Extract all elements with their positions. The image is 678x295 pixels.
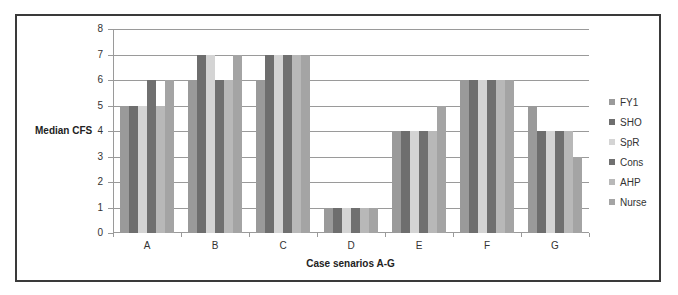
legend-swatch-icon bbox=[609, 99, 615, 105]
x-tick-mark bbox=[181, 233, 182, 237]
y-tick-mark bbox=[108, 80, 113, 81]
bar-F-sho bbox=[469, 80, 478, 233]
bar-G-sho bbox=[537, 131, 546, 233]
y-tick-mark bbox=[108, 182, 113, 183]
bar-B-fy1 bbox=[188, 80, 197, 233]
bar-B-cons bbox=[215, 80, 224, 233]
gridline bbox=[113, 55, 589, 56]
y-tick-label: 0 bbox=[83, 227, 103, 238]
y-tick-label: 6 bbox=[83, 74, 103, 85]
bar-E-ahp bbox=[428, 131, 437, 233]
bar-F-ahp bbox=[496, 80, 505, 233]
gridline bbox=[113, 80, 589, 81]
x-category-label: A bbox=[113, 240, 181, 251]
legend-item-nurse: Nurse bbox=[609, 192, 647, 212]
y-tick-mark bbox=[108, 208, 113, 209]
bar-A-ahp bbox=[156, 106, 165, 234]
bar-A-cons bbox=[147, 80, 156, 233]
y-tick-label: 3 bbox=[83, 151, 103, 162]
bar-B-spr bbox=[206, 55, 215, 234]
bar-G-cons bbox=[555, 131, 564, 233]
bar-E-cons bbox=[419, 131, 428, 233]
x-tick-mark bbox=[521, 233, 522, 237]
legend-label: AHP bbox=[620, 177, 641, 188]
bar-F-spr bbox=[478, 80, 487, 233]
bar-E-fy1 bbox=[392, 131, 401, 233]
bar-E-sho bbox=[401, 131, 410, 233]
bar-A-spr bbox=[138, 106, 147, 234]
bar-C-fy1 bbox=[256, 80, 265, 233]
x-tick-mark bbox=[249, 233, 250, 237]
bar-G-fy1 bbox=[528, 106, 537, 234]
legend-swatch-icon bbox=[609, 119, 615, 125]
gridline bbox=[113, 29, 589, 30]
bar-G-ahp bbox=[564, 131, 573, 233]
bar-D-spr bbox=[342, 208, 351, 234]
plot-area bbox=[113, 29, 589, 233]
y-tick-label: 2 bbox=[83, 176, 103, 187]
x-tick-mark bbox=[385, 233, 386, 237]
legend-label: Cons bbox=[620, 157, 643, 168]
legend-item-spr: SpR bbox=[609, 132, 647, 152]
y-tick-label: 7 bbox=[83, 49, 103, 60]
legend-label: SHO bbox=[620, 117, 642, 128]
bar-E-nurse bbox=[437, 106, 446, 234]
y-tick-label: 5 bbox=[83, 100, 103, 111]
bar-B-nurse bbox=[233, 55, 242, 234]
x-category-label: G bbox=[521, 240, 589, 251]
y-tick-label: 8 bbox=[83, 23, 103, 34]
y-tick-label: 4 bbox=[83, 125, 103, 136]
bar-E-spr bbox=[410, 131, 419, 233]
bar-A-fy1 bbox=[120, 106, 129, 234]
bar-A-sho bbox=[129, 106, 138, 234]
bar-D-ahp bbox=[360, 208, 369, 234]
legend-label: FY1 bbox=[620, 97, 638, 108]
x-tick-mark bbox=[317, 233, 318, 237]
legend-swatch-icon bbox=[609, 139, 615, 145]
bar-D-cons bbox=[351, 208, 360, 234]
x-tick-mark bbox=[589, 233, 590, 237]
bar-C-cons bbox=[283, 55, 292, 234]
legend-item-cons: Cons bbox=[609, 152, 647, 172]
bar-C-sho bbox=[265, 55, 274, 234]
x-category-label: C bbox=[249, 240, 317, 251]
y-tick-mark bbox=[108, 157, 113, 158]
y-tick-mark bbox=[108, 55, 113, 56]
bar-A-nurse bbox=[165, 80, 174, 233]
legend-swatch-icon bbox=[609, 179, 615, 185]
legend-item-sho: SHO bbox=[609, 112, 647, 132]
bar-C-ahp bbox=[292, 55, 301, 234]
legend-item-ahp: AHP bbox=[609, 172, 647, 192]
x-category-label: B bbox=[181, 240, 249, 251]
x-category-label: F bbox=[453, 240, 521, 251]
legend: FY1SHOSpRConsAHPNurse bbox=[609, 92, 647, 212]
gridline bbox=[113, 182, 589, 183]
gridline bbox=[113, 157, 589, 158]
y-tick-mark bbox=[108, 131, 113, 132]
x-axis-title: Case senarios A-G bbox=[0, 258, 678, 269]
bar-B-ahp bbox=[224, 80, 233, 233]
bar-B-sho bbox=[197, 55, 206, 234]
bar-F-fy1 bbox=[460, 80, 469, 233]
x-tick-mark bbox=[113, 233, 114, 237]
x-category-label: E bbox=[385, 240, 453, 251]
legend-label: Nurse bbox=[620, 197, 647, 208]
bar-D-sho bbox=[333, 208, 342, 234]
y-tick-label: 1 bbox=[83, 202, 103, 213]
y-tick-mark bbox=[108, 29, 113, 30]
legend-swatch-icon bbox=[609, 159, 615, 165]
x-category-label: D bbox=[317, 240, 385, 251]
x-tick-mark bbox=[453, 233, 454, 237]
gridline bbox=[113, 131, 589, 132]
bar-C-spr bbox=[274, 55, 283, 234]
gridline bbox=[113, 106, 589, 107]
bar-D-fy1 bbox=[324, 208, 333, 234]
bar-D-nurse bbox=[369, 208, 378, 234]
bar-C-nurse bbox=[301, 55, 310, 234]
legend-label: SpR bbox=[620, 137, 639, 148]
legend-swatch-icon bbox=[609, 199, 615, 205]
bar-G-spr bbox=[546, 131, 555, 233]
bar-F-cons bbox=[487, 80, 496, 233]
y-tick-mark bbox=[108, 106, 113, 107]
legend-item-fy1: FY1 bbox=[609, 92, 647, 112]
